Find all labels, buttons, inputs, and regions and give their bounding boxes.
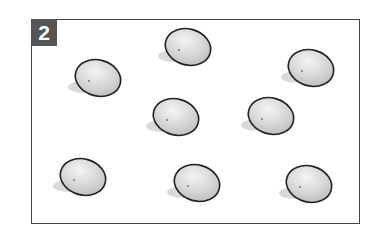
egg-speck [187, 185, 189, 187]
egg [68, 55, 125, 102]
egg-shell [161, 24, 215, 71]
egg [167, 160, 224, 207]
egg-speck [88, 80, 90, 82]
egg [158, 24, 215, 71]
egg-speck [166, 119, 168, 121]
egg-shell [282, 161, 336, 208]
eggs-illustration [0, 0, 377, 232]
egg-shell [56, 154, 110, 201]
egg [53, 154, 110, 201]
egg-shell [244, 93, 298, 140]
egg-shell [71, 55, 125, 102]
egg-shell [149, 94, 203, 141]
egg-speck [178, 49, 180, 51]
egg-speck [301, 70, 303, 72]
egg-speck [299, 186, 301, 188]
egg-speck [73, 179, 75, 181]
egg [241, 93, 298, 140]
egg [279, 161, 336, 208]
egg-speck [261, 118, 263, 120]
egg-shell [284, 45, 338, 92]
egg [146, 94, 203, 141]
egg [281, 45, 338, 92]
egg-shell [170, 160, 224, 207]
